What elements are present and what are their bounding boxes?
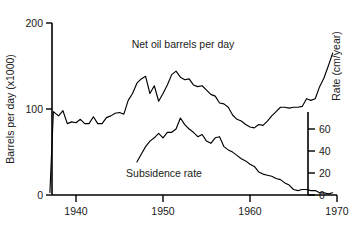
- series-line-subsidence-rate: [137, 118, 333, 194]
- annotation-subsidence-rate: Subsidence rate: [126, 167, 202, 179]
- x-ticklabel-1950: 1950: [151, 205, 175, 217]
- chart-canvas: 200 100 0 Barrels per day (x1000) 1940 1…: [0, 0, 352, 232]
- left-ticklabel-200: 200: [25, 17, 43, 29]
- left-ticklabel-0: 0: [37, 189, 43, 201]
- annotation-net-oil-barrels-per-day: Net oil barrels per day: [132, 38, 235, 50]
- x-axis: 1940 1950 1960 1970: [52, 195, 349, 217]
- figure-root: 200 100 0 Barrels per day (x1000) 1940 1…: [0, 0, 352, 232]
- x-ticklabel-1970: 1970: [325, 205, 349, 217]
- x-ticklabel-1940: 1940: [64, 205, 88, 217]
- right-y-axis: 60 40 20 0 Rate (cm/year): [308, 31, 342, 201]
- left-y-axis: 200 100 0 Barrels per day (x1000): [4, 17, 52, 201]
- right-ticklabel-40: 40: [319, 145, 331, 157]
- x-ticklabel-1960: 1960: [238, 205, 262, 217]
- right-ticklabel-0: 0: [319, 189, 325, 201]
- right-ticklabel-60: 60: [319, 123, 331, 135]
- right-axis-title: Rate (cm/year): [330, 31, 342, 100]
- left-axis-title: Barrels per day (x1000): [4, 54, 16, 164]
- right-ticklabel-20: 20: [319, 167, 331, 179]
- left-ticklabel-100: 100: [25, 103, 43, 115]
